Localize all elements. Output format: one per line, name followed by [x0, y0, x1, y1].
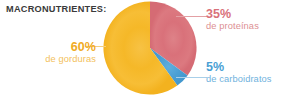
callout-proteins-percent: 35% — [206, 8, 259, 21]
macronutrients-infographic: MACRONUTRIENTES: — [0, 0, 298, 96]
callout-carbs-label: de carboidratos — [206, 75, 272, 84]
page-title: MACRONUTRIENTES: — [6, 5, 106, 14]
callout-proteins-label: de proteínas — [206, 22, 259, 31]
callout-fats: 60% de gorduras — [16, 41, 96, 65]
callout-fats-label: de gorduras — [16, 55, 96, 64]
callout-fats-percent: 60% — [16, 41, 96, 54]
callout-carbs-percent: 5% — [206, 61, 272, 74]
callout-carbs: 5% de carboidratos — [206, 61, 272, 85]
leader-line-proteins — [176, 16, 207, 17]
callout-proteins: 35% de proteínas — [206, 8, 259, 32]
leader-line-carbs — [176, 77, 207, 78]
